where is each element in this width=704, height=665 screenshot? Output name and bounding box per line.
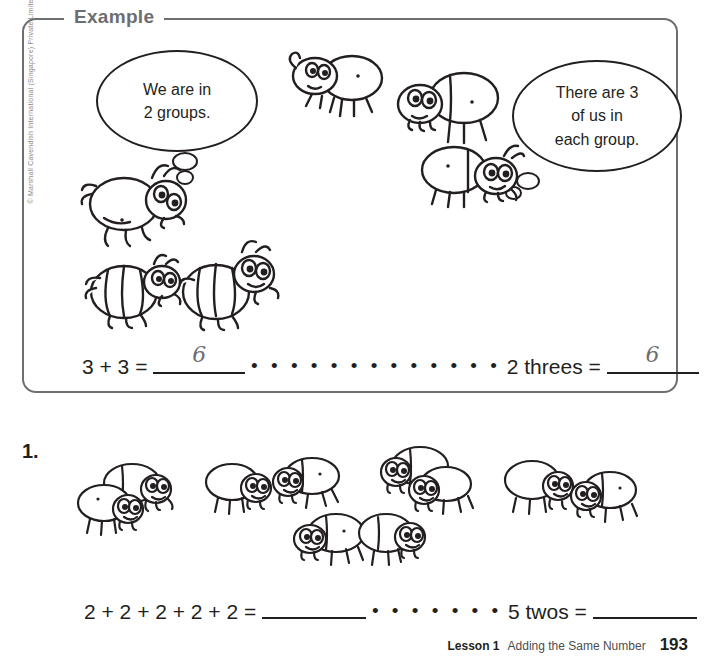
question1-equation-row: 2 + 2 + 2 + 2 + 2 = • • • • • • • 5 twos… <box>84 595 697 624</box>
example-answer-blank-left[interactable]: 6 <box>153 350 245 374</box>
bug-illustration <box>498 450 648 528</box>
dotted-leader: • • • • • • • <box>372 600 502 622</box>
worksheet-page: © Marshall Cavendish International (Sing… <box>0 0 704 665</box>
question1-answer-blank-left[interactable] <box>262 595 366 619</box>
example-equation-right: 2 threes = <box>507 355 601 378</box>
bubble-left-line1: We are in <box>143 78 211 101</box>
example-answer-left-value: 6 <box>153 342 245 367</box>
bubble-right-line2: of us in <box>555 104 640 127</box>
bug-illustration <box>282 48 397 126</box>
bug-illustration <box>172 238 292 333</box>
footer-title: Adding the Same Number <box>508 639 646 653</box>
page-footer: Lesson 1 Adding the Same Number 193 <box>448 635 688 655</box>
question1-equation-left: 2 + 2 + 2 + 2 + 2 = <box>84 600 256 623</box>
question1-equation-right: 5 twos = <box>508 600 587 623</box>
example-equation-row: 3 + 3 = 6 • • • • • • • • • • • • • 2 th… <box>82 350 699 379</box>
bug-illustration <box>70 455 200 540</box>
example-label: Example <box>64 6 164 28</box>
bubble-right-line3: each group. <box>555 128 640 151</box>
bug-illustration <box>412 140 532 222</box>
question-number: 1. <box>22 440 39 463</box>
dotted-leader: • • • • • • • • • • • • • <box>251 355 501 377</box>
speech-bubble-left: We are in 2 groups. <box>96 50 258 152</box>
footer-lesson: Lesson 1 <box>448 639 500 653</box>
bug-illustration <box>278 505 438 577</box>
speech-bubble-right: There are 3 of us in each group. <box>512 60 682 172</box>
question1-answer-blank-right[interactable] <box>593 595 697 619</box>
example-answer-blank-right[interactable]: 6 <box>607 350 699 374</box>
example-equation-left: 3 + 3 = <box>82 355 147 378</box>
bubble-left-line2: 2 groups. <box>143 101 211 124</box>
footer-page-number: 193 <box>660 635 688 655</box>
example-answer-right-value: 6 <box>607 342 699 367</box>
bubble-right-line1: There are 3 <box>555 81 640 104</box>
